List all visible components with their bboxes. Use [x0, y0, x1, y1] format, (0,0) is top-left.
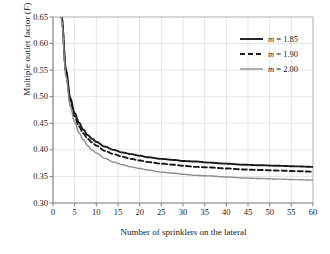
series-line-0 [60, 0, 313, 167]
chart-figure: Multiple outlet factor (F) 0.300.350.400… [0, 0, 330, 254]
plot-area [0, 0, 330, 254]
series-line-2 [60, 0, 313, 180]
series-line-1 [60, 0, 313, 172]
